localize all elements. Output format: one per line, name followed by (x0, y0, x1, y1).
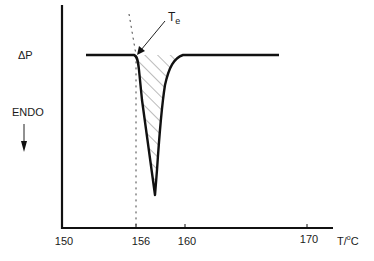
x-label-degree: o (347, 234, 351, 241)
y-axis-label: ΔP (18, 49, 33, 61)
x-tick-label-160: 160 (178, 235, 196, 247)
dsc-chart: ΔP ENDO Te 150 156 160 170 T/oC (0, 0, 374, 261)
te-label: Te (168, 10, 180, 24)
endo-label: ENDO (12, 106, 44, 118)
dsc-curve (86, 55, 279, 195)
x-label-t: T/ (337, 235, 347, 247)
x-tick-label-170: 170 (300, 233, 318, 245)
x-label-c: C (351, 235, 359, 247)
chart-canvas (0, 0, 374, 261)
x-tick-label-150: 150 (55, 235, 73, 247)
onset-tangent-line (129, 14, 136, 228)
x-axis-label: T/oC (337, 235, 359, 247)
endo-arrow-head (21, 141, 27, 152)
peak-area-hatch (136, 55, 188, 195)
x-tick-label-156: 156 (132, 235, 150, 247)
te-subscript: e (175, 16, 180, 26)
te-arrow-line (141, 21, 165, 50)
